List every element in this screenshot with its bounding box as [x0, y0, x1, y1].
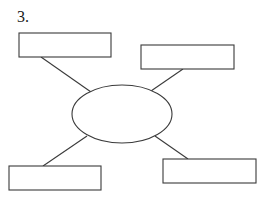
connector-bottom-left: [43, 136, 87, 166]
center-ellipse[interactable]: [72, 85, 172, 143]
spider-map-diagram: [0, 0, 271, 203]
box-bottom-right[interactable]: [163, 159, 256, 183]
box-top-left[interactable]: [19, 33, 111, 57]
box-bottom-left[interactable]: [9, 166, 101, 190]
connector-top-left: [41, 57, 91, 92]
connector-bottom-right: [155, 136, 188, 159]
box-top-right[interactable]: [141, 45, 234, 69]
center-ellipse-group: [72, 85, 172, 143]
connector-top-right: [151, 69, 183, 91]
